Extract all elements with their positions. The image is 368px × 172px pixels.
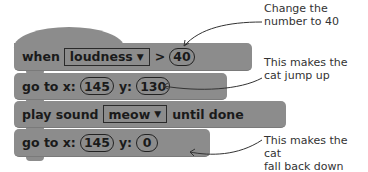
annotation-arrows xyxy=(0,0,368,172)
